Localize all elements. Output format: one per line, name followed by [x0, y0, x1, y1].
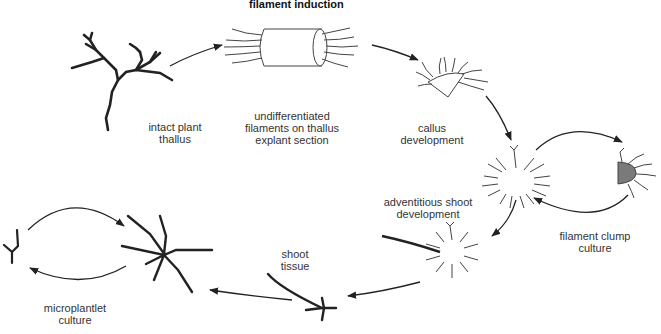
- small-plantlet-icon: [4, 230, 18, 263]
- microplantlet-star-icon: [122, 216, 212, 292]
- label-intact-plant: intact plant thallus: [130, 121, 220, 145]
- diagram-canvas: filament induction intact plant thallus …: [0, 0, 661, 334]
- callus-icon: [416, 57, 488, 97]
- label-filament-clump: filament clump culture: [540, 230, 650, 254]
- label-explant: undifferentiated filaments on thallus ex…: [232, 110, 352, 146]
- label-microplantlet: microplantlet culture: [30, 302, 120, 326]
- label-callus: callus development: [382, 122, 482, 146]
- shoot-tissue-icon: [268, 274, 336, 320]
- title-filament-induction: filament induction: [249, 0, 344, 10]
- diagram-drawing: [0, 0, 661, 334]
- filament-clump-icon: [618, 148, 656, 198]
- adventitious-shoot-icon: [382, 222, 478, 278]
- intact-plant-icon: [72, 33, 172, 130]
- explant-icon: [224, 28, 358, 67]
- label-adventitious: adventitious shoot development: [368, 196, 488, 220]
- callus-clump-icon: [482, 145, 550, 208]
- label-shoot-tissue: shoot tissue: [270, 248, 320, 272]
